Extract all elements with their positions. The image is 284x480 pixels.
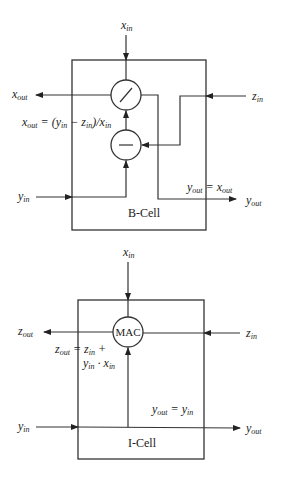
- b-z-in-wire: [142, 96, 206, 145]
- i-z-out-equation-line2: yin · xin: [82, 356, 115, 371]
- i-z-out-label: zout: [17, 324, 34, 339]
- i-y-out-arrow: [78, 427, 240, 428]
- b-z-in-label: zin: [251, 89, 263, 104]
- mac-label: MAC: [115, 326, 140, 338]
- i-z-out-equation-line1: zout = zin +: [54, 342, 106, 357]
- b-x-out-equation: xout = (yin − zin)/xin: [21, 115, 111, 130]
- b-y-in-label: yin: [17, 189, 30, 204]
- i-y-out-label: yout: [245, 421, 262, 436]
- i-cell: MAC xin zout zin yin yout zout = zin + y…: [17, 245, 262, 459]
- b-x-out-label: xout: [11, 87, 28, 102]
- i-x-in-label: xin: [122, 245, 135, 260]
- b-cell-title: B-Cell: [128, 206, 161, 220]
- i-z-in-label: zin: [245, 326, 257, 341]
- i-cell-title: I-Cell: [128, 436, 157, 450]
- systolic-cells-diagram: xin xout zin yin yout xout = (yin − zin)…: [0, 0, 284, 480]
- b-y-out-label: yout: [245, 193, 262, 208]
- i-y-in-label: yin: [17, 419, 30, 434]
- b-y-in-wire: [72, 161, 126, 197]
- i-y-out-equation: yout = yin: [151, 402, 193, 417]
- b-cell: xin xout zin yin yout xout = (yin − zin)…: [11, 18, 263, 230]
- b-y-out-equation: yout = xout: [186, 180, 233, 195]
- b-x-in-label: xin: [120, 18, 133, 33]
